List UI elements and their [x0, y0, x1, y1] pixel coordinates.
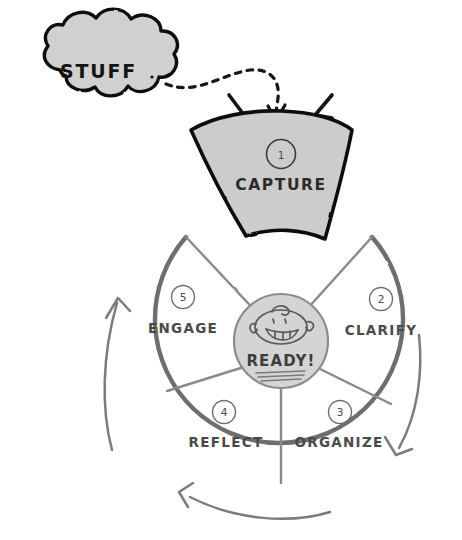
dashed-curved-arrow-icon	[166, 70, 278, 114]
capture-wedge-shape	[191, 111, 352, 239]
diagram-canvas: STUFF 1 CAPTURE	[0, 0, 462, 540]
gtd-workflow-diagram: STUFF 1 CAPTURE	[0, 0, 462, 540]
flow-arrow-right-head	[385, 437, 412, 455]
engage-number: 5	[180, 291, 187, 303]
capture-wedge[interactable]: 1 CAPTURE	[191, 111, 352, 239]
cloud-dot	[150, 75, 153, 78]
flow-arrow-left-shaft	[105, 303, 117, 450]
flow-arrow-right-shaft	[399, 335, 420, 448]
reflect-number-badge: 4	[213, 401, 236, 424]
flow-arrow-bottom-head	[179, 483, 193, 507]
divider-clarify-organize	[314, 366, 391, 404]
flow-arrow-right	[385, 335, 420, 455]
organize-number-badge: 3	[329, 401, 352, 424]
hub-circle	[234, 294, 328, 388]
ready-hub[interactable]: READY!	[234, 294, 328, 388]
engage-number-badge: 5	[172, 286, 195, 309]
capture-number: 1	[278, 149, 285, 161]
stuff-label: STUFF	[60, 60, 137, 82]
cloud-shape-icon	[44, 9, 177, 96]
flow-arrow-bottom-shaft	[190, 497, 330, 519]
ready-label: READY!	[246, 352, 315, 370]
stuff-cloud[interactable]: STUFF	[44, 9, 177, 96]
flow-arrow-left	[105, 298, 130, 450]
flow-arrow-bottom	[179, 483, 330, 519]
segment-clarify[interactable]: 2 CLARIFY	[345, 288, 417, 339]
reflect-number: 4	[221, 406, 228, 418]
organize-number: 3	[337, 406, 344, 418]
engage-label: ENGAGE	[148, 320, 218, 336]
clarify-number: 2	[378, 293, 385, 305]
divider-reflect-engage	[167, 366, 247, 391]
organize-label: ORGANIZE	[294, 434, 383, 450]
reflect-label: REFLECT	[189, 434, 264, 450]
clarify-number-badge: 2	[370, 288, 393, 311]
segment-reflect[interactable]: 4 REFLECT	[189, 401, 264, 451]
flow-arrow-left-head	[106, 298, 130, 318]
clarify-label: CLARIFY	[345, 322, 417, 338]
capture-label: CAPTURE	[235, 176, 327, 194]
